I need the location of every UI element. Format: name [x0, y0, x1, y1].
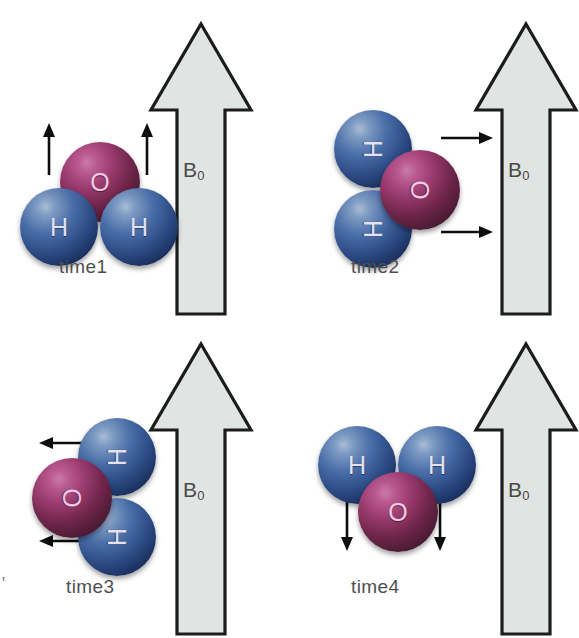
hydrogen-atom-left: H [20, 188, 98, 266]
scan-artifact-mark: ' [2, 574, 5, 591]
time-caption-time1: time1 [59, 256, 107, 278]
b0-subscript: 0 [197, 168, 205, 183]
b0-letter: B [508, 158, 522, 181]
panel-time4: B0 H H O time4 [290, 316, 579, 632]
hydrogen-label-right: H [100, 188, 178, 266]
hydrogen-label-left: H [20, 188, 98, 266]
b0-field-label: B0 [183, 158, 205, 182]
b0-subscript: 0 [522, 168, 530, 183]
oxygen-atom: O [32, 458, 112, 538]
time-caption-time2: time2 [351, 256, 399, 278]
oxygen-atom: O [380, 150, 460, 230]
b0-subscript: 0 [197, 488, 205, 503]
b0-letter: B [183, 158, 197, 181]
b0-subscript: 0 [522, 488, 530, 503]
water-molecule-time4: H H O [316, 424, 476, 584]
oxygen-label: O [358, 472, 438, 552]
panel-time1: B0 O H H time1 [0, 0, 289, 316]
b0-letter: B [508, 478, 522, 501]
oxygen-label: O [32, 458, 112, 538]
oxygen-atom: O [358, 472, 438, 552]
oxygen-label: O [380, 150, 460, 230]
panel-time2: B0 H H O time2 [290, 0, 579, 316]
time-caption-time3: time3 [66, 576, 114, 598]
time-caption-time4: time4 [351, 576, 399, 598]
water-molecule-time3: H H O [30, 416, 190, 576]
water-molecule-time2: H H O [332, 108, 492, 268]
b0-field-label: B0 [508, 158, 530, 182]
hydrogen-atom-right: H [100, 188, 178, 266]
panel-time3: B0 H H O time3 [0, 316, 289, 632]
b0-field-label: B0 [508, 478, 530, 502]
